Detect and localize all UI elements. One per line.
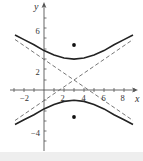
x-tick-label: 8 (121, 93, 125, 103)
y-tick-label: 6 (36, 26, 40, 36)
asymptotes (15, 40, 133, 121)
hyperbola-lower-branch (15, 100, 133, 124)
hyperbola-upper-branch (15, 35, 133, 59)
lower-focus-point (72, 115, 76, 119)
x-tick-label: 2 (61, 93, 65, 103)
y-axis-label: y (33, 1, 39, 12)
bottom-band (0, 152, 143, 161)
axes (10, 2, 138, 151)
hyperbola-chart: −2 2 4 6 8 6 2 −4 x y (0, 0, 143, 152)
upper-focus-point (72, 43, 76, 47)
x-tick-label: 6 (102, 93, 106, 103)
x-tick-label: −2 (20, 93, 29, 103)
y-tick-label: 2 (36, 67, 40, 77)
x-axis-label: x (134, 93, 140, 104)
y-tick-label: −4 (31, 128, 41, 138)
